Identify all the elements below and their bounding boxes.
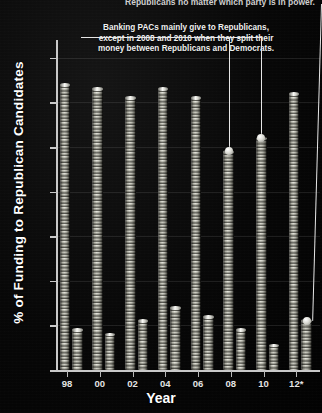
y-axis-line (56, 40, 58, 371)
bar (60, 85, 71, 370)
x-axis-tick (67, 371, 68, 377)
x-axis-tick-label: 08 (216, 378, 246, 389)
y-axis-tick (50, 58, 57, 60)
bar (138, 321, 149, 370)
x-axis-line (56, 370, 320, 372)
top-caption: Republicans no matter which party is in … (118, 0, 322, 8)
bar (72, 330, 83, 370)
y-axis-title: % of Funding to Republican Candidates (11, 23, 26, 363)
x-axis-tick (296, 371, 297, 377)
x-axis-title: Year (0, 390, 322, 406)
y-axis-tick (50, 102, 57, 104)
bar (289, 94, 300, 370)
y-axis-tick (50, 192, 57, 194)
bar (92, 89, 103, 370)
bar (269, 345, 280, 370)
x-axis-tick (100, 371, 101, 377)
leader-line-vertical (261, 37, 262, 138)
bar (105, 334, 116, 370)
bar (203, 317, 214, 371)
chart-plot-area: 010203040506070 9800020406081012* (58, 40, 320, 370)
y-axis-tick (50, 236, 57, 238)
bar (256, 138, 267, 370)
x-axis-tick-label: 10 (249, 378, 279, 389)
y-axis-tick (50, 281, 57, 283)
bar (125, 98, 136, 370)
bar (170, 308, 181, 370)
callout-dot (303, 317, 311, 325)
y-axis-tick (50, 147, 57, 149)
x-axis-tick-label: 98 (52, 378, 82, 389)
x-axis-tick-label: 00 (85, 378, 115, 389)
y-axis-tick (50, 370, 57, 372)
x-axis-tick-label: 12* (281, 378, 311, 389)
leader-line-vertical (312, 4, 322, 321)
x-axis-tick (198, 371, 199, 377)
leader-line-horizontal (81, 37, 261, 38)
x-axis-tick (133, 371, 134, 377)
x-axis-tick (231, 371, 232, 377)
bar (301, 321, 312, 370)
bar (191, 98, 202, 370)
x-axis-tick-label: 02 (118, 378, 148, 389)
annotation-line-1: Banking PACs mainly give to Republicans, (84, 23, 288, 34)
leader-line-vertical (229, 37, 230, 151)
bar (223, 152, 234, 371)
y-axis-tick (50, 325, 57, 327)
x-axis-tick (264, 371, 265, 377)
x-axis-tick-label: 06 (183, 378, 213, 389)
bar (236, 330, 247, 370)
gridline (58, 58, 320, 59)
bar (158, 89, 169, 370)
x-axis-tick (165, 371, 166, 377)
x-axis-tick-label: 04 (150, 378, 180, 389)
